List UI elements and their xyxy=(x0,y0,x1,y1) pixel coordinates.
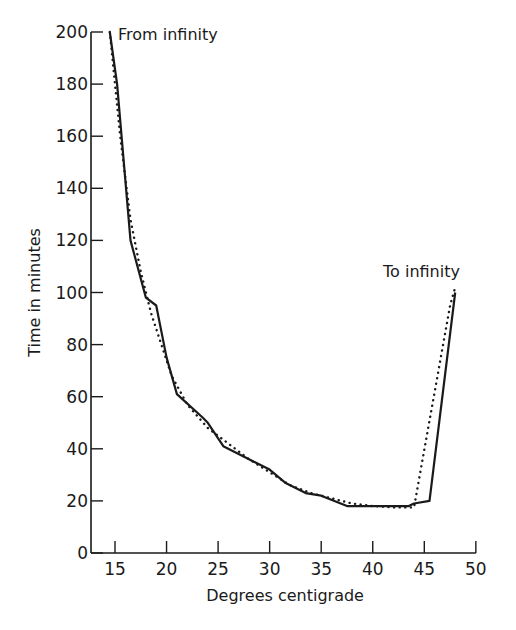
x-tick-label: 45 xyxy=(413,559,435,579)
chart-canvas: 0204060801001201401601802001520253035404… xyxy=(0,0,516,630)
x-axis-label: Degrees centigrade xyxy=(206,586,364,605)
y-tick-label: 20 xyxy=(66,491,88,511)
axes: 0204060801001201401601802001520253035404… xyxy=(25,22,487,605)
x-tick-label: 35 xyxy=(310,559,332,579)
y-tick-label: 140 xyxy=(56,178,88,198)
y-tick-label: 100 xyxy=(56,283,88,303)
y-tick-label: 80 xyxy=(66,335,88,355)
x-tick-label: 30 xyxy=(259,559,281,579)
annotations: From infinityTo infinity xyxy=(118,25,460,281)
annotation-to-infinity: To infinity xyxy=(382,262,460,281)
annotation-from-infinity: From infinity xyxy=(118,25,218,44)
x-tick-label: 25 xyxy=(207,559,229,579)
y-tick-label: 200 xyxy=(56,22,88,42)
y-axis-label: Time in minutes xyxy=(25,228,44,358)
y-tick-label: 0 xyxy=(77,543,88,563)
x-tick-label: 40 xyxy=(362,559,384,579)
y-tick-label: 180 xyxy=(56,74,88,94)
y-tick-label: 160 xyxy=(56,126,88,146)
x-tick-label: 15 xyxy=(104,559,126,579)
y-tick-label: 60 xyxy=(66,387,88,407)
x-tick-label: 20 xyxy=(156,559,178,579)
y-tick-label: 120 xyxy=(56,230,88,250)
x-tick-label: 50 xyxy=(465,559,487,579)
y-tick-label: 40 xyxy=(66,439,88,459)
